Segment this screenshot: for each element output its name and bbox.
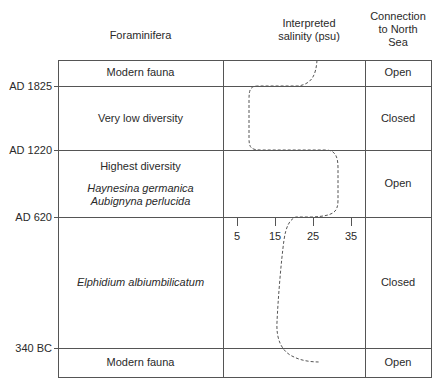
fauna-cell: Modern fauna [58,66,223,78]
date-label: AD 1825 [0,80,52,92]
header-connection-line3: Sea [365,36,431,49]
fauna-cell: Modern fauna [58,356,223,368]
fauna-cell: Highest diversity [58,160,223,172]
connection-cell: Closed [365,112,431,124]
salinity-tick-label: 15 [263,230,287,242]
date-label: AD 1220 [0,144,52,156]
connection-cell: Open [365,177,431,189]
salinity-tick-label: 35 [339,230,363,242]
connection-cell: Open [365,356,431,368]
header-connection-line1: Connection [365,10,431,23]
date-label: AD 620 [0,211,52,223]
fauna-cell: Very low diversity [58,112,223,124]
salinity-tick-label: 25 [301,230,325,242]
species-name: Aubignyna perlucida [58,195,223,207]
fauna-cell: Elphidium albiumbilicatum [58,276,223,288]
header-salinity: Interpreted salinity (psu) [250,17,368,43]
salinity-curve [249,60,338,362]
connection-cell: Closed [365,276,431,288]
header-connection: Connection to North Sea [365,10,431,49]
date-label: 340 BC [0,342,52,354]
salinity-tick-label: 5 [225,230,249,242]
species-name: Haynesina germanica [58,182,223,194]
header-foraminifera: Foraminifera [58,29,223,42]
header-connection-line2: to North [365,23,431,36]
header-salinity-line2: salinity (psu) [250,30,368,43]
connection-cell: Open [365,66,431,78]
header-salinity-line1: Interpreted [250,17,368,30]
